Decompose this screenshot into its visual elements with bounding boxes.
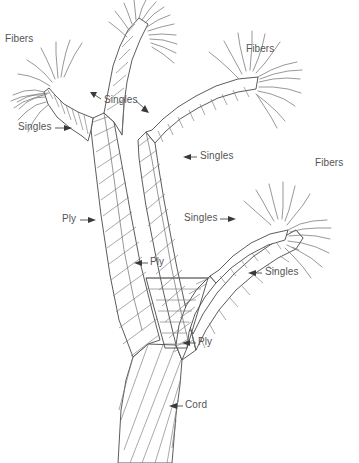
- label-ply-lower: Ply: [198, 336, 212, 347]
- label-singles-mid: Singles: [184, 212, 218, 223]
- label-ply-left: Ply: [62, 213, 76, 224]
- singles-upper-mid-strand: [104, 18, 148, 135]
- label-fibers-top-left: Fibers: [5, 33, 33, 44]
- label-singles-upper-mid: Singles: [104, 94, 138, 105]
- diagram-canvas: [0, 0, 359, 463]
- label-singles-right-upper: Singles: [200, 150, 234, 161]
- label-cord-bottom: Cord: [185, 399, 207, 410]
- label-fibers-mid-right: Fibers: [315, 157, 343, 168]
- singles-left-strand: [44, 88, 93, 141]
- cord-trunk: [118, 344, 182, 463]
- label-ply-mid: Ply: [150, 256, 164, 267]
- label-singles-lower-right: Singles: [265, 266, 299, 277]
- singles-right-upper-strand: [146, 77, 258, 143]
- label-fibers-top-right: Fibers: [246, 43, 274, 54]
- label-singles-left: Singles: [18, 121, 52, 132]
- arrow-singles-mid: [220, 216, 236, 222]
- yarn-construction-diagram: Fibers Fibers Fibers Singles Singles Sin…: [0, 0, 359, 463]
- arrow-ply-left: [80, 217, 96, 223]
- arrow-singles-right-upper: [183, 154, 197, 160]
